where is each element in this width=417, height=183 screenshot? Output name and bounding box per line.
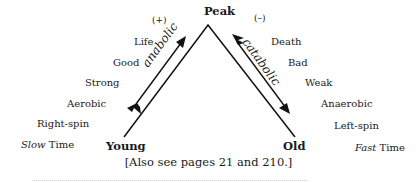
left-term-life: Life: [134, 37, 153, 47]
anabolic-fletch-icon: [127, 103, 141, 114]
young-label: Young: [106, 141, 146, 153]
page-reference-caption: [Also see pages 21 and 210.]: [0, 157, 417, 169]
positive-sign: (+): [152, 16, 167, 25]
negative-sign: (–): [254, 14, 266, 23]
left-time-rest: Time: [46, 139, 74, 150]
catabolic-arrowhead-icon: [279, 103, 290, 114]
right-term-bad: Bad: [288, 58, 308, 68]
left-term-strong: Strong: [85, 78, 120, 88]
right-time-rest: Time: [376, 142, 404, 153]
right-term-anaerobic: Anaerobic: [321, 99, 373, 109]
right-term-left-spin: Left-spin: [334, 121, 379, 131]
right-time: Fast Time: [355, 143, 405, 153]
right-time-emph: Fast: [355, 142, 376, 153]
anabolic-arrowhead-icon: [176, 36, 186, 48]
peak-label: Peak: [204, 6, 235, 18]
right-term-death: Death: [271, 37, 301, 47]
old-label: Old: [283, 141, 305, 153]
divider-rule: [32, 180, 307, 181]
left-time: Slow Time: [21, 140, 74, 150]
left-term-right-spin: Right-spin: [37, 119, 89, 129]
right-term-weak: Weak: [305, 78, 332, 88]
left-term-good: Good: [113, 58, 139, 68]
left-time-emph: Slow: [21, 139, 46, 150]
left-term-aerobic: Aerobic: [67, 99, 106, 109]
